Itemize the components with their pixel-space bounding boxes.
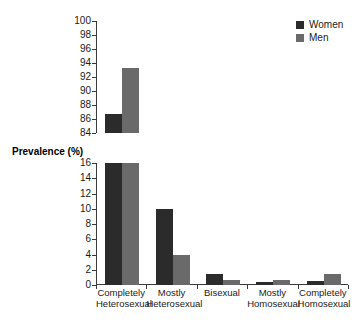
bar-men-0	[122, 68, 139, 133]
y-tick-mark	[92, 49, 96, 50]
y-tick-mark	[92, 239, 96, 240]
bar-women-3	[256, 282, 273, 285]
bar-men-0	[122, 163, 139, 285]
x-axis-label-line2: Heterosexual	[96, 298, 146, 309]
y-tick-label: 100	[74, 15, 91, 26]
y-tick-mark	[92, 119, 96, 120]
y-axis-line-upper	[96, 21, 97, 133]
y-tick-mark	[92, 21, 96, 22]
y-tick-mark	[92, 178, 96, 179]
y-tick-mark	[92, 163, 96, 164]
y-tick-label: 12	[80, 188, 91, 199]
y-tick-mark	[92, 63, 96, 64]
bar-men-1	[173, 255, 190, 285]
y-axis-title: Prevalence (%)	[12, 146, 83, 157]
y-tick-label: 4	[85, 249, 91, 260]
y-tick-label: 10	[80, 203, 91, 214]
bar-men-3	[273, 280, 290, 285]
y-axis-line-lower	[96, 163, 97, 285]
x-axis-label-4: CompletelyHomosexual	[298, 287, 348, 309]
y-tick-mark	[92, 77, 96, 78]
x-axis-label-line2: Homosexual	[298, 298, 348, 309]
y-tick-label: 94	[80, 57, 91, 68]
y-tick-mark	[92, 194, 96, 195]
y-tick-label: 8	[85, 218, 91, 229]
bar-women-2	[206, 274, 223, 285]
y-tick-label: 6	[85, 233, 91, 244]
y-tick-label: 96	[80, 43, 91, 54]
bar-chart: Women Men Prevalence (%) 848688909294969…	[0, 0, 364, 327]
y-tick-label: 90	[80, 85, 91, 96]
x-axis-label-line2: Homosexual	[247, 298, 297, 309]
bar-women-4	[307, 281, 324, 285]
x-axis-label-1: MostlyHeterosexual	[146, 287, 196, 309]
x-axis-label-line1: Completely	[299, 287, 347, 298]
y-tick-label: 84	[80, 127, 91, 138]
y-tick-label: 2	[85, 264, 91, 275]
x-tick-5	[348, 285, 349, 289]
y-tick-label: 16	[80, 157, 91, 168]
x-axis-labels: CompletelyHeterosexualMostlyHeterosexual…	[96, 287, 348, 321]
bar-women-1	[156, 209, 173, 285]
chart-panel-upper: 8486889092949698100	[96, 21, 348, 133]
y-tick-mark	[92, 35, 96, 36]
x-axis-label-line1: Mostly	[158, 287, 185, 298]
y-tick-label: 86	[80, 113, 91, 124]
bar-men-2	[223, 280, 240, 285]
y-tick-label: 0	[85, 279, 91, 290]
y-tick-label: 14	[80, 172, 91, 183]
x-axis-label-3: MostlyHomosexual	[247, 287, 297, 309]
bar-men-4	[324, 274, 341, 285]
chart-panel-lower: 0246810121416	[96, 163, 348, 285]
x-axis-label-line2: Heterosexual	[146, 298, 196, 309]
y-tick-mark	[92, 91, 96, 92]
x-axis-label-line1: Completely	[97, 287, 145, 298]
y-tick-mark	[92, 133, 96, 134]
x-axis-label-line1: Bisexual	[204, 287, 240, 298]
y-tick-mark	[92, 105, 96, 106]
y-tick-label: 98	[80, 29, 91, 40]
bar-women-0	[105, 163, 122, 285]
y-tick-mark	[92, 270, 96, 271]
x-axis-label-0: CompletelyHeterosexual	[96, 287, 146, 309]
y-tick-label: 92	[80, 71, 91, 82]
y-tick-label: 88	[80, 99, 91, 110]
bar-women-0	[105, 114, 122, 133]
y-tick-mark	[92, 255, 96, 256]
x-axis-label-2: Bisexual	[197, 287, 247, 298]
y-tick-mark	[92, 209, 96, 210]
y-tick-mark	[92, 224, 96, 225]
x-axis-label-line1: Mostly	[259, 287, 286, 298]
